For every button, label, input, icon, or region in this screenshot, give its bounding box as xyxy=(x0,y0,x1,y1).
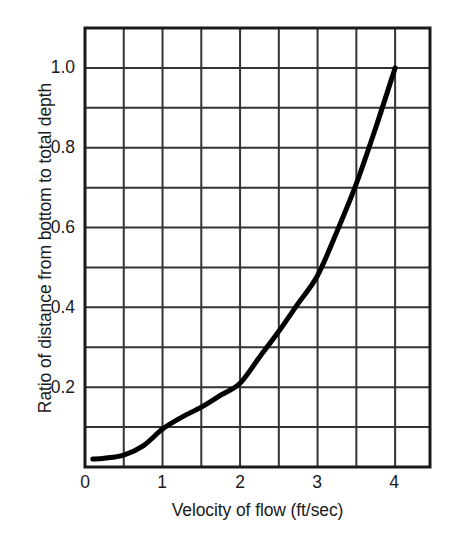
chart-figure: Ratio of distance from bottom to total d… xyxy=(0,0,457,550)
plot-area xyxy=(0,0,457,550)
velocity-profile-curve xyxy=(93,68,395,459)
plot-frame xyxy=(85,28,430,467)
grid-lines xyxy=(85,28,430,467)
